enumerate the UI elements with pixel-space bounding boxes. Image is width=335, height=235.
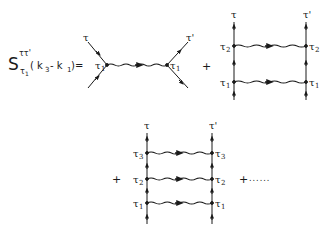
vertex-dot <box>146 202 149 205</box>
vertex-dot <box>305 45 308 48</box>
vertex-dot <box>211 152 214 155</box>
equation-k3-index: 3 <box>45 66 49 74</box>
feynman-diagram-equation: S ττ' τ 1 ( k 3 - k 1 )= τ τ' τ 1 τ 1 + <box>0 0 335 235</box>
vertex-dot <box>106 64 109 67</box>
vertex-dot <box>233 81 236 84</box>
plus-operator: + <box>239 173 248 186</box>
label-rung-left-index: 1 <box>139 203 143 211</box>
label-tau-prime-right: τ' <box>303 9 311 20</box>
vertex-dot <box>146 178 149 181</box>
equation-argument-close: )= <box>71 60 83 71</box>
vertex-dot <box>305 81 308 84</box>
label-tau-prime-right: τ' <box>209 120 217 131</box>
equation-argument-open: ( k <box>30 60 43 71</box>
label-rung-right-index: 2 <box>315 46 319 54</box>
label-tau-left: τ <box>144 120 150 131</box>
equation-symbol: S <box>8 54 19 74</box>
label-tau-left: τ <box>231 9 237 20</box>
diagram-ladder-2 <box>233 22 308 100</box>
vertex-dot <box>146 152 149 155</box>
label-rung-left-index: 2 <box>226 46 230 54</box>
label-rung-left-index: 1 <box>226 82 230 90</box>
label-tau-left: τ <box>83 32 89 43</box>
vertex-dot <box>233 45 236 48</box>
label-vertex-left-index: 1 <box>101 65 105 73</box>
label-rung-right-index: 2 <box>221 179 225 187</box>
label-rung-right-index: 3 <box>221 153 225 161</box>
equation-lhs: S ττ' τ 1 ( k 3 - k 1 )= <box>8 49 83 77</box>
equation-superscript: ττ' <box>19 49 31 58</box>
label-rung-right-index: 1 <box>221 203 225 211</box>
plus-operator: + <box>202 60 211 73</box>
vertex-dot <box>211 202 214 205</box>
vertex-dot <box>166 64 169 67</box>
vertex-dot <box>211 178 214 181</box>
diagram-ladder-3 <box>146 133 214 224</box>
ellipsis: ...... <box>249 174 270 183</box>
equation-subscript-index: 1 <box>25 70 29 77</box>
label-tau-prime-right: τ' <box>186 32 194 43</box>
plus-operator: + <box>112 173 121 186</box>
equation-argument-minus: - k <box>50 60 63 71</box>
label-rung-left-index: 3 <box>139 153 143 161</box>
arrow-icon <box>177 51 180 54</box>
label-vertex-right-index: 1 <box>176 65 180 73</box>
label-rung-left-index: 2 <box>139 179 143 187</box>
label-rung-right-index: 1 <box>315 82 319 90</box>
